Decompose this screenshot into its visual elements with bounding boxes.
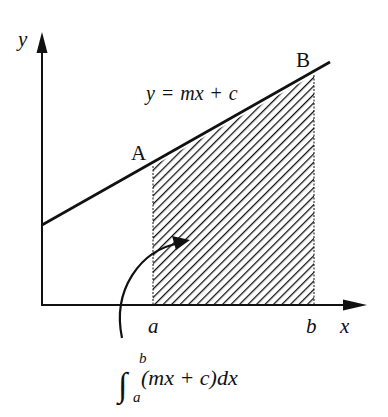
integral-integrand: (mx + c)dx <box>141 365 238 390</box>
y-axis <box>37 32 48 305</box>
y-axis-label: y <box>16 27 28 51</box>
x-axis-label: x <box>339 314 350 338</box>
shaded-area-region <box>153 75 314 305</box>
point-b-label: B <box>296 48 310 72</box>
line-equation-label: y = mx + c <box>144 82 238 105</box>
upper-limit-b-label: b <box>306 314 317 338</box>
x-axis-arrow-icon <box>343 300 367 311</box>
integral-sign-icon: ∫ <box>116 366 130 406</box>
lower-limit-a-label: a <box>148 314 159 338</box>
area-under-line-diagram: y x A B y = mx + c a b ∫ b a (mx + c)dx <box>0 0 388 417</box>
integral-upper-limit: b <box>139 350 147 366</box>
integral-expression: ∫ b a (mx + c)dx <box>116 350 238 406</box>
integral-lower-limit: a <box>133 389 141 405</box>
point-a-label: A <box>131 141 147 165</box>
y-axis-arrow-icon <box>37 32 48 53</box>
